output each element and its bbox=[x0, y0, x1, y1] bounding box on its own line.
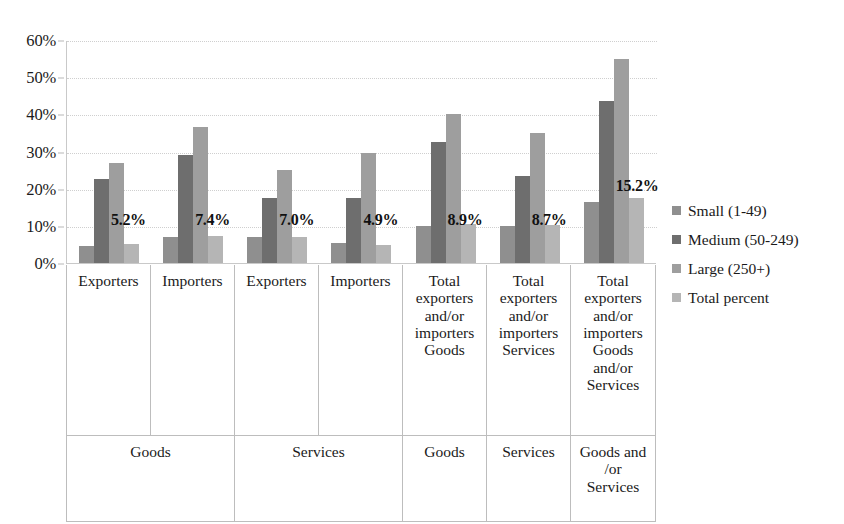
y-axis-tick-label: 50% bbox=[26, 70, 56, 87]
data-label: 8.9% bbox=[448, 212, 483, 228]
category-cell: Importers bbox=[151, 265, 235, 435]
y-axis: 60%50%40%30%20%10%0% bbox=[8, 30, 64, 275]
legend-item[interactable]: Medium (50-249) bbox=[672, 225, 840, 254]
bar-group: 7.0% bbox=[235, 41, 319, 263]
y-axis-tick-label: 40% bbox=[26, 107, 56, 124]
legend-label: Large (250+) bbox=[688, 261, 770, 277]
bar-t[interactable] bbox=[376, 245, 391, 263]
category-cell: Totalexportersand/orimportersGoodsand/or… bbox=[571, 265, 655, 435]
legend-item[interactable]: Total percent bbox=[672, 283, 840, 312]
legend-swatch-icon bbox=[672, 293, 681, 302]
data-label: 7.4% bbox=[195, 212, 230, 228]
bar-s[interactable] bbox=[416, 226, 431, 263]
bar-m[interactable] bbox=[431, 142, 446, 263]
legend-label: Medium (50-249) bbox=[688, 232, 799, 248]
bar-m[interactable] bbox=[515, 176, 530, 263]
bar-group: 8.7% bbox=[488, 41, 572, 263]
category-line: and/or bbox=[571, 359, 655, 376]
category-row-secondary: GoodsServicesGoodsServicesGoods and/orSe… bbox=[67, 435, 655, 521]
category-line: Goods bbox=[67, 443, 234, 460]
category-cell: Exporters bbox=[235, 265, 319, 435]
category-cell: Totalexportersand/orimportersServices bbox=[487, 265, 571, 435]
y-axis-tick-mark bbox=[58, 115, 64, 116]
category-line: and/or bbox=[403, 307, 486, 324]
category-line: importers bbox=[571, 324, 655, 341]
bar-t[interactable] bbox=[461, 224, 476, 263]
category-cell: Importers bbox=[319, 265, 403, 435]
bar-t[interactable] bbox=[124, 244, 139, 263]
bars-layer: 5.2%7.4%7.0%4.9%8.9%8.7%15.2% bbox=[67, 41, 656, 263]
category-line: Goods bbox=[571, 341, 655, 358]
bar-m[interactable] bbox=[599, 101, 614, 263]
bar-t[interactable] bbox=[208, 236, 223, 264]
y-axis-tick-mark bbox=[58, 78, 64, 79]
bar-m[interactable] bbox=[346, 198, 361, 263]
y-axis-tick-label: 0% bbox=[34, 256, 56, 273]
legend-swatch-icon bbox=[672, 264, 681, 273]
category-cell: Services bbox=[487, 436, 571, 521]
category-line: Total bbox=[487, 272, 570, 289]
bar-s[interactable] bbox=[247, 237, 262, 263]
bar-m[interactable] bbox=[178, 155, 193, 263]
category-line: exporters bbox=[487, 289, 570, 306]
category-row-primary: ExportersImportersExportersImportersTota… bbox=[67, 265, 655, 435]
y-axis-tick-label: 60% bbox=[26, 33, 56, 50]
bar-group: 15.2% bbox=[572, 41, 656, 263]
category-line: Total bbox=[403, 272, 486, 289]
y-axis-tick-label: 30% bbox=[26, 144, 56, 161]
bar-group: 5.2% bbox=[67, 41, 151, 263]
bar-s[interactable] bbox=[584, 202, 599, 263]
category-line: Exporters bbox=[235, 272, 318, 289]
category-cell: Totalexportersand/orimportersGoods bbox=[403, 265, 487, 435]
legend-swatch-icon bbox=[672, 206, 681, 215]
bar-l[interactable] bbox=[530, 133, 545, 263]
y-axis-tick-mark bbox=[58, 41, 64, 42]
bar-group: 8.9% bbox=[404, 41, 488, 263]
category-line: /or bbox=[571, 460, 655, 477]
category-cell: Exporters bbox=[67, 265, 151, 435]
category-cell: Goods and/orServices bbox=[571, 436, 655, 521]
category-line: Goods bbox=[403, 341, 486, 358]
bar-m[interactable] bbox=[262, 198, 277, 263]
bar-l[interactable] bbox=[193, 127, 208, 263]
bar-l[interactable] bbox=[446, 114, 461, 263]
category-line: Importers bbox=[151, 272, 234, 289]
category-line: importers bbox=[487, 324, 570, 341]
data-label: 4.9% bbox=[363, 212, 398, 228]
category-line: Goods bbox=[403, 443, 486, 460]
chart-container: 60%50%40%30%20%10%0% 5.2%7.4%7.0%4.9%8.9… bbox=[0, 0, 844, 524]
category-line: Services bbox=[571, 478, 655, 495]
legend-item[interactable]: Small (1-49) bbox=[672, 196, 840, 225]
bar-l[interactable] bbox=[614, 59, 629, 263]
y-axis-tick-label: 10% bbox=[26, 219, 56, 236]
category-cell: Services bbox=[235, 436, 403, 521]
bar-m[interactable] bbox=[94, 179, 109, 263]
y-axis-tick-mark bbox=[58, 226, 64, 227]
legend-item[interactable]: Large (250+) bbox=[672, 254, 840, 283]
bar-s[interactable] bbox=[331, 243, 346, 263]
legend-swatch-icon bbox=[672, 235, 681, 244]
bar-group: 4.9% bbox=[319, 41, 403, 263]
bar-t[interactable] bbox=[545, 225, 560, 263]
category-cell: Goods bbox=[67, 436, 235, 521]
bar-l[interactable] bbox=[361, 153, 376, 263]
legend-label: Small (1-49) bbox=[688, 203, 767, 219]
category-line: importers bbox=[403, 324, 486, 341]
data-label: 5.2% bbox=[111, 212, 146, 228]
plot-area: 5.2%7.4%7.0%4.9%8.9%8.7%15.2% bbox=[66, 41, 656, 264]
category-axis-table: ExportersImportersExportersImportersTota… bbox=[66, 265, 656, 522]
category-line: Services bbox=[571, 376, 655, 393]
bar-s[interactable] bbox=[163, 237, 178, 263]
category-line: Services bbox=[487, 443, 570, 460]
bar-s[interactable] bbox=[79, 246, 94, 263]
category-line: exporters bbox=[571, 289, 655, 306]
data-label: 7.0% bbox=[279, 212, 314, 228]
category-line: and/or bbox=[487, 307, 570, 324]
category-cell: Goods bbox=[403, 436, 487, 521]
y-axis-tick-label: 20% bbox=[26, 181, 56, 198]
category-line: Importers bbox=[319, 272, 402, 289]
bar-s[interactable] bbox=[500, 226, 515, 263]
bar-t[interactable] bbox=[629, 198, 644, 263]
bar-group: 7.4% bbox=[151, 41, 235, 263]
bar-t[interactable] bbox=[292, 237, 307, 263]
